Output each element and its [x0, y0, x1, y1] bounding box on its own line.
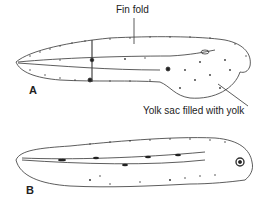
larva-illustration	[0, 0, 275, 206]
yolk-sac-leader	[218, 84, 248, 106]
larva-a	[16, 37, 250, 99]
panel-b-label: B	[26, 184, 34, 196]
panel-a-label: A	[29, 84, 37, 96]
larva-b	[16, 138, 253, 187]
yolk-sac-label: Yolk sac filled with yolk	[143, 105, 244, 116]
larva-b-dots	[58, 138, 226, 184]
fin-fold-label: Fin fold	[116, 4, 149, 15]
